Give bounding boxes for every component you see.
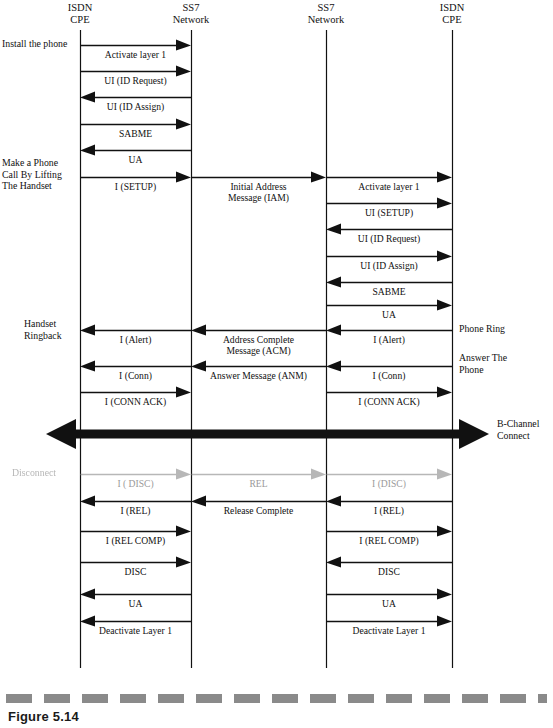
message-label-m12: SABME bbox=[323, 286, 455, 297]
message-label-m25: I (REL) bbox=[70, 505, 202, 516]
annotation-sl-disconnect: Disconnect bbox=[12, 467, 56, 479]
message-label-m20: I (CONN ACK) bbox=[70, 396, 202, 407]
message-label-m26: Release Complete bbox=[193, 505, 325, 516]
lifeline-header-1: ISDN CPE bbox=[45, 2, 115, 25]
message-label-m11: UI (ID Assign) bbox=[323, 260, 455, 271]
lifeline-header-4: ISDN CPE bbox=[417, 2, 487, 25]
dash-segment bbox=[272, 694, 298, 703]
message-label-m2: UI (ID Request) bbox=[70, 75, 202, 86]
message-label-m23: REL bbox=[193, 478, 325, 489]
message-label-m16: I (Alert) bbox=[70, 334, 202, 345]
annotation-sl-phonering: Phone Ring bbox=[459, 323, 505, 335]
annotation-sl-answer: Answer The Phone bbox=[459, 352, 507, 375]
message-label-m7: Initial Address Message (IAM) bbox=[193, 181, 325, 203]
message-label-m9: UI (SETUP) bbox=[323, 207, 455, 218]
b-channel-connect-arrow bbox=[46, 419, 489, 449]
message-label-m29: I (REL COMP) bbox=[323, 535, 455, 546]
message-label-m19: I (Conn) bbox=[70, 370, 202, 381]
dash-segment bbox=[386, 694, 412, 703]
message-label-m30: DISC bbox=[70, 566, 202, 577]
message-label-m24: I (DISC) bbox=[323, 478, 455, 489]
message-label-m33: UA bbox=[323, 598, 455, 609]
message-label-m32: UA bbox=[70, 598, 202, 609]
message-label-m4: SABME bbox=[70, 128, 202, 139]
message-label-m13: UA bbox=[323, 309, 455, 320]
dash-segment bbox=[234, 694, 260, 703]
dash-segment bbox=[424, 694, 450, 703]
annotation-sl-install: Install the phone bbox=[2, 38, 67, 50]
dash-segment bbox=[158, 694, 184, 703]
message-label-m14: I (Alert) bbox=[323, 334, 455, 345]
lifeline-header-2: SS7 Network bbox=[156, 2, 226, 25]
message-label-m27: I (REL) bbox=[323, 505, 455, 516]
message-label-m35: Deactivate Layer 1 bbox=[323, 625, 455, 636]
message-label-m22: I ( DISC) bbox=[70, 478, 202, 489]
lifeline-header-3: SS7 Network bbox=[291, 2, 361, 25]
message-label-m21: I (CONN ACK) bbox=[323, 396, 455, 407]
sequence-diagram: ISDN CPESS7 NetworkSS7 NetworkISDN CPEAc… bbox=[0, 0, 553, 728]
figure-caption: Figure 5.14 bbox=[8, 709, 79, 724]
message-label-m8: Activate layer 1 bbox=[323, 181, 455, 192]
decorative-dashed-bar bbox=[6, 694, 547, 703]
dash-segment bbox=[82, 694, 108, 703]
dash-segment bbox=[196, 694, 222, 703]
message-label-m31: DISC bbox=[323, 566, 455, 577]
annotation-sl-makecall: Make a Phone Call By Lifting The Handset bbox=[2, 157, 62, 192]
dash-segment bbox=[6, 694, 32, 703]
dash-segment bbox=[348, 694, 374, 703]
message-label-m5: UA bbox=[70, 154, 202, 165]
dash-segment bbox=[120, 694, 146, 703]
message-label-m6: I (SETUP) bbox=[70, 181, 202, 192]
dash-segment bbox=[310, 694, 336, 703]
message-label-m18: Answer Message (ANM) bbox=[193, 370, 325, 381]
annotation-sl-bchannel: B-Channel Connect bbox=[497, 418, 539, 441]
dash-segment bbox=[538, 694, 547, 703]
message-label-m17: I (Conn) bbox=[323, 370, 455, 381]
dash-segment bbox=[462, 694, 488, 703]
message-label-m34: Deactivate Layer 1 bbox=[70, 625, 202, 636]
dash-segment bbox=[500, 694, 526, 703]
message-label-m15: Address Complete Message (ACM) bbox=[193, 334, 325, 356]
annotation-sl-ringback: Handset Ringback bbox=[24, 318, 62, 341]
message-label-m28: I (REL COMP) bbox=[70, 535, 202, 546]
dash-segment bbox=[44, 694, 70, 703]
message-label-m3: UI (ID Assign) bbox=[70, 101, 202, 112]
message-label-m10: UI (ID Request) bbox=[323, 233, 455, 244]
message-label-m1: Activate layer 1 bbox=[70, 49, 202, 60]
